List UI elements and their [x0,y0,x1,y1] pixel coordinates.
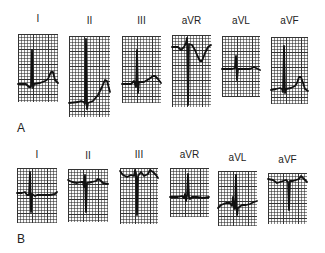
lead-label-avf: aVF [270,16,310,26]
ecg-strip-b-iii [120,168,158,224]
ecg-strip-a-avl [222,36,260,97]
ecg-trace [17,172,57,212]
lead-label-iii: III [122,16,162,26]
lead-label-ii: II [70,16,110,26]
ecg-trace [18,50,58,88]
lead-label-i: I [17,150,57,160]
ecg-trace [68,175,108,212]
lead-label-avr: aVR [172,16,212,26]
ecg-strip-b-avl [218,171,257,226]
panel-label-a: A [17,122,25,134]
ecg-strip-a-avf [271,37,308,104]
ecg-trace [120,170,158,215]
ecg-trace [69,39,110,109]
ecg-strip-a-i [18,34,58,102]
ecg-strip-a-ii [69,36,110,117]
lead-label-avr: aVR [170,150,210,160]
ecg-trace [268,176,307,210]
ecg-strip-b-avr [170,168,209,217]
ecg-strip-b-i [17,168,57,223]
lead-label-i: I [18,14,58,24]
ecg-strip-b-avf [268,173,307,224]
lead-label-avl: aVL [218,153,258,163]
ecg-trace [122,50,161,93]
lead-label-avf: aVF [268,155,308,165]
ecg-strip-a-avr [172,35,211,107]
ecg-trace [172,38,211,105]
lead-label-avl: aVL [221,16,261,26]
ecg-trace [218,175,257,215]
ecg-strip-b-ii [68,169,108,222]
ecg-trace [222,56,260,80]
ecg-trace [271,46,308,93]
ecg-trace [170,174,209,201]
panel-label-b: B [17,233,25,245]
lead-label-iii: III [119,150,159,160]
lead-label-ii: II [68,151,108,161]
ecg-strip-a-iii [122,36,161,103]
